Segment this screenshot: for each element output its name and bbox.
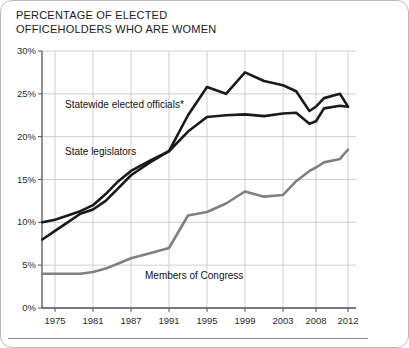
annotation-statewide-elected-officials: Statewide elected officials*: [65, 99, 184, 110]
y-axis-tick-label: 5%: [4, 259, 36, 270]
x-axis-tick-label: 1999: [226, 315, 264, 326]
x-axis-tick-label: 1987: [112, 315, 150, 326]
y-axis-tick-label: 20%: [4, 131, 36, 142]
bottom-divider: [8, 338, 368, 339]
x-axis-tick-label: 2012: [329, 315, 367, 326]
y-axis-tick-label: 30%: [4, 45, 36, 56]
y-axis-tick-label: 15%: [4, 174, 36, 185]
annotation-members-of-congress: Members of Congress: [145, 270, 243, 281]
x-axis-tick-label: 1975: [36, 315, 74, 326]
x-axis-tick-label: 1981: [74, 315, 112, 326]
y-axis-tick-label: 25%: [4, 88, 36, 99]
x-axis-tick-label: 1991: [150, 315, 188, 326]
chart-svg: [0, 0, 409, 348]
y-axis-tick-label: 10%: [4, 216, 36, 227]
series-line-1: [42, 106, 348, 223]
x-axis-tick-label: 1995: [188, 315, 226, 326]
line-chart: 0%5%10%15%20%25%30% 19751981198719911995…: [0, 0, 409, 348]
annotation-state-legislators: State legislators: [65, 146, 136, 157]
y-axis-tick-label: 0%: [4, 302, 36, 313]
